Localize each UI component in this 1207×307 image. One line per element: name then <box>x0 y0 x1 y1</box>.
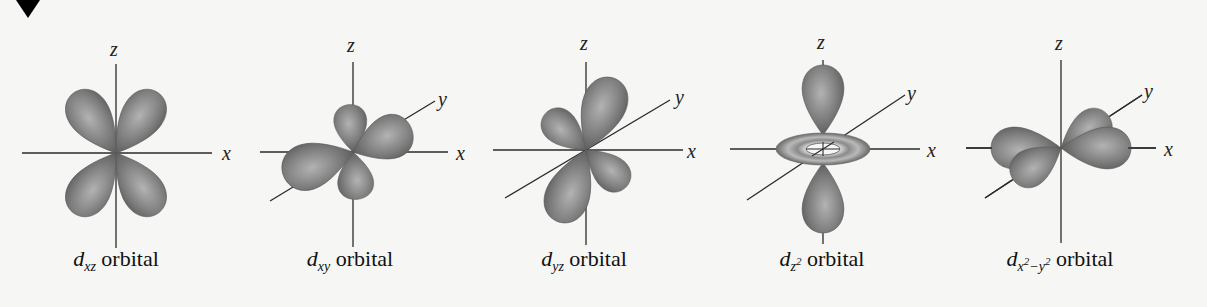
svg-text:z: z <box>109 38 118 60</box>
orbital-panel-dxz: z x dxz orbital <box>0 0 240 307</box>
dxy-orbital-diagram: z y x <box>240 0 480 250</box>
svg-text:z: z <box>1054 32 1063 54</box>
caption-dyz: dyz orbital <box>541 246 627 275</box>
svg-text:x: x <box>221 142 231 164</box>
dx2-y2-orbital-diagram: z y x <box>950 0 1207 250</box>
caption-dz2: dz2 orbital <box>780 246 865 275</box>
dz2-orbital-diagram: z y x <box>720 0 960 250</box>
orbital-panel-dyz: z y x dyz orbital <box>480 0 720 307</box>
svg-text:x: x <box>926 139 936 161</box>
svg-text:z: z <box>346 34 355 56</box>
svg-text:y: y <box>1142 80 1153 103</box>
dxz-orbital-diagram: z x <box>0 0 240 250</box>
svg-text:y: y <box>673 86 684 109</box>
orbital-panel-dxy: z y x dxy orbital <box>240 0 480 307</box>
caption-dxy: dxy orbital <box>307 246 393 275</box>
svg-text:x: x <box>455 142 465 164</box>
svg-text:z: z <box>816 31 825 53</box>
svg-text:z: z <box>579 32 588 54</box>
svg-text:y: y <box>436 88 447 111</box>
caption-dx2-y2: dx2−y2 orbital <box>1007 246 1114 275</box>
svg-text:x: x <box>686 140 696 162</box>
caption-dxz: dxz orbital <box>73 246 159 275</box>
svg-text:y: y <box>905 82 916 105</box>
orbital-panel-dz2: z y x dz2 orbital <box>720 0 960 307</box>
dyz-orbital-diagram: z y x <box>480 0 720 250</box>
orbital-panel-dx2-y2: z y x dx2−y2 orbital <box>950 0 1207 307</box>
svg-text:x: x <box>1163 138 1173 160</box>
